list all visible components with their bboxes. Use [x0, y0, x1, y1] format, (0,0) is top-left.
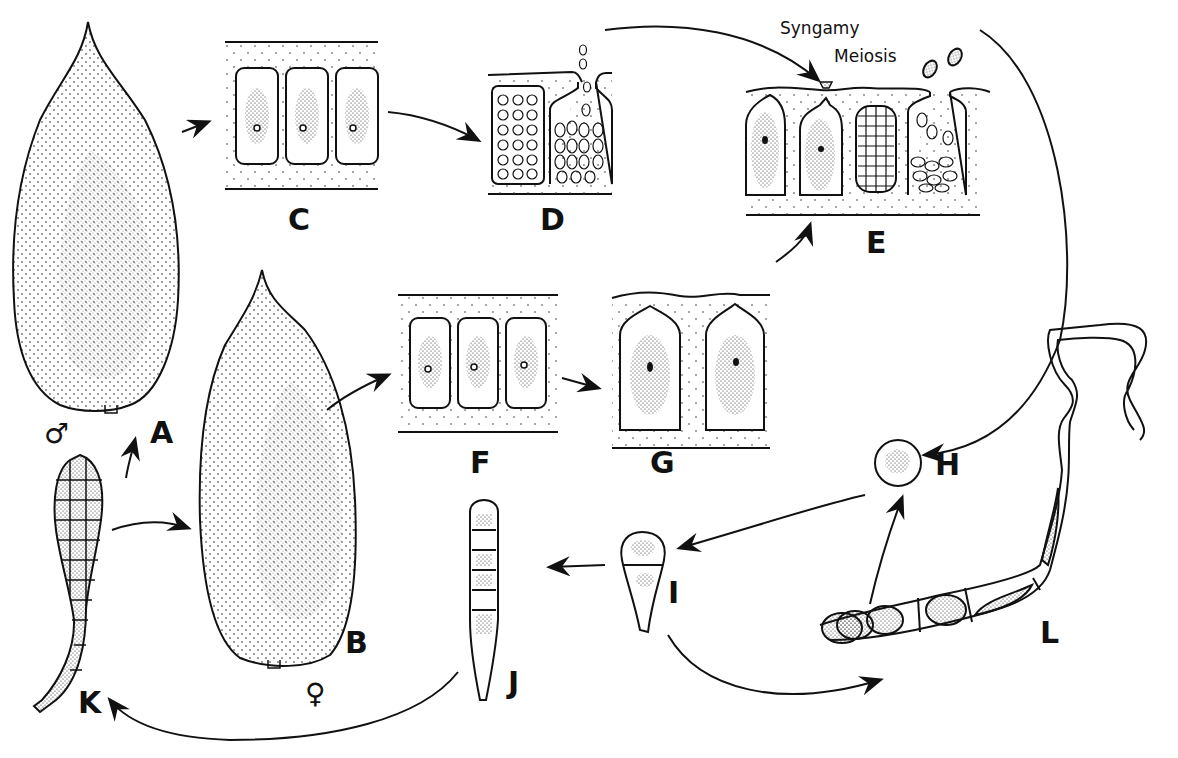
syngamy-label: Syngamy	[780, 20, 859, 37]
label-i: I	[668, 578, 679, 608]
label-b: B	[345, 628, 368, 658]
stage-f-cells	[398, 295, 558, 432]
male-symbol: ♂	[44, 420, 69, 448]
stage-k-young-blade	[34, 455, 103, 712]
stage-h-spore	[875, 440, 921, 486]
stage-g-carpogonia	[612, 293, 770, 449]
label-a: A	[150, 418, 173, 448]
label-j: J	[508, 668, 519, 698]
label-l: L	[1040, 618, 1059, 648]
label-h: H	[935, 450, 960, 480]
stage-c-cells	[225, 42, 378, 189]
label-c: C	[288, 205, 310, 235]
label-g: G	[650, 448, 675, 478]
meiosis-label: Meiosis	[834, 48, 897, 65]
stage-a-male-blade	[13, 22, 179, 413]
label-f: F	[470, 448, 491, 478]
stage-i-germling	[621, 532, 665, 632]
stage-j-germling	[470, 500, 498, 700]
female-symbol: ♀	[305, 680, 326, 708]
label-k: K	[78, 688, 101, 718]
stage-e-carposporangia	[746, 46, 990, 215]
life-cycle-diagram	[0, 0, 1178, 758]
stage-d-spermatangia	[488, 45, 612, 194]
label-d: D	[540, 205, 565, 235]
stage-l-conchocelis	[820, 324, 1146, 643]
stage-b-female-blade	[200, 270, 356, 668]
label-e: E	[866, 228, 887, 258]
